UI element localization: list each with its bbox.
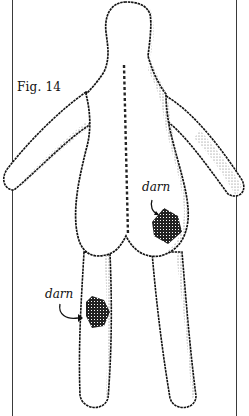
- doll-illustration: Fig. 14 darn darn: [0, 0, 249, 416]
- left-arm: [4, 92, 93, 190]
- darn-label-leg: darn: [45, 287, 73, 301]
- darn-label-hip: darn: [142, 180, 170, 194]
- doll-drawing: [0, 0, 249, 416]
- left-leg: [79, 252, 111, 407]
- figure-label: Fig. 14: [17, 80, 61, 94]
- right-leg: [152, 252, 196, 408]
